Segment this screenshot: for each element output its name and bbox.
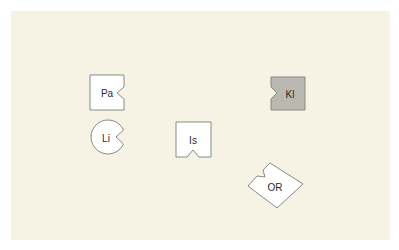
pa-label: Pa xyxy=(101,88,113,99)
kl-label: Kl xyxy=(286,89,295,100)
shapes-layer xyxy=(0,0,399,250)
or-label: OR xyxy=(268,182,283,193)
is-label: Is xyxy=(189,135,197,146)
li-label: Li xyxy=(102,133,110,144)
